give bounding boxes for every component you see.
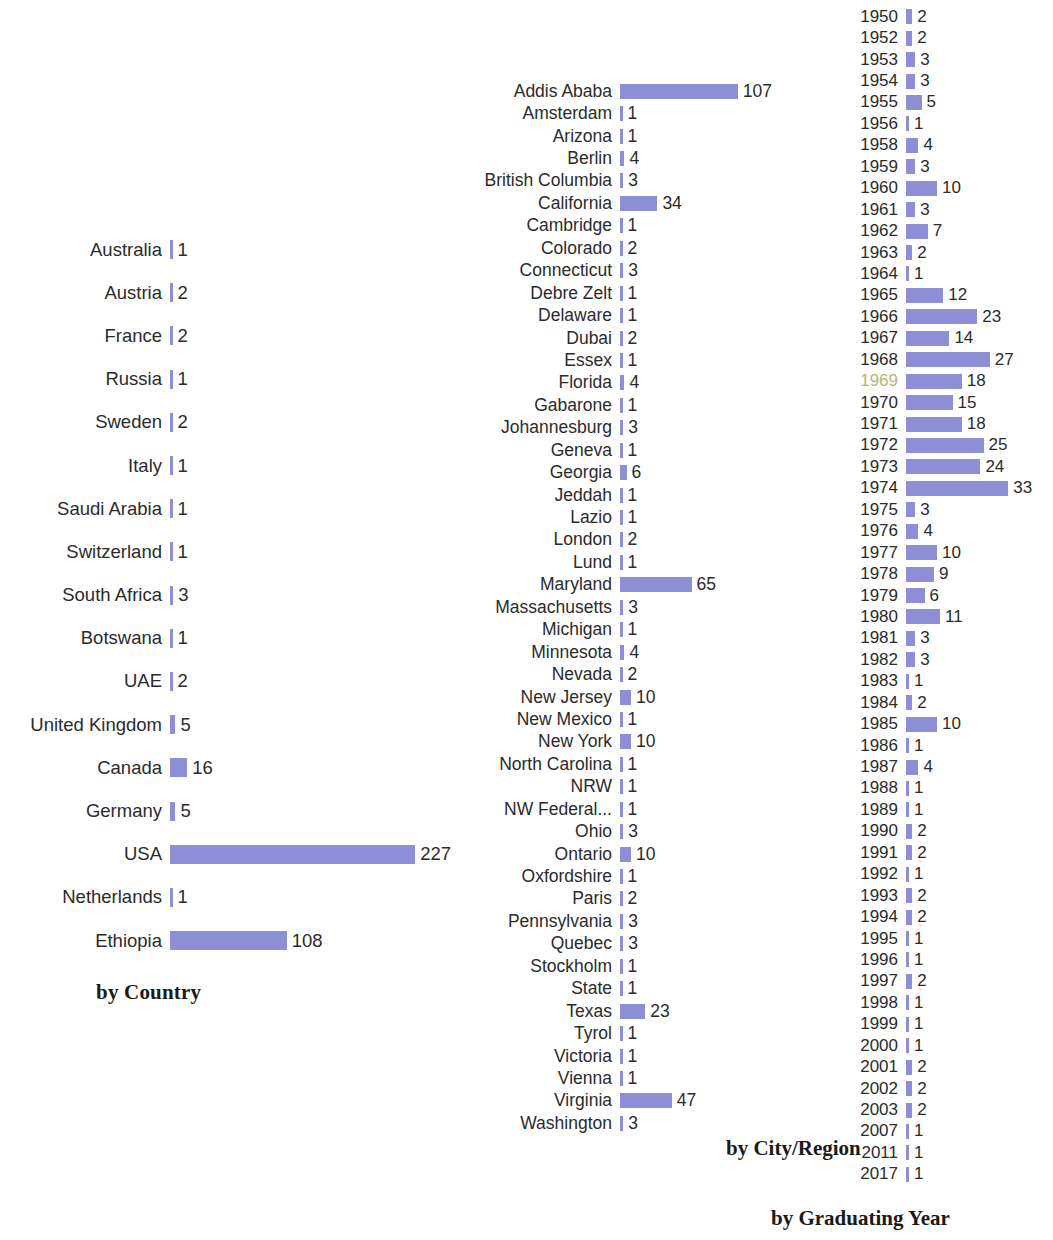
bar-row[interactable]: 19972: [820, 971, 1053, 992]
bar-graduating-year-23[interactable]: [906, 502, 915, 517]
bar-row[interactable]: Nevada2: [410, 663, 840, 685]
bar-row[interactable]: 198011: [820, 606, 1053, 627]
bar-row[interactable]: Maryland65: [410, 574, 840, 596]
bar-row[interactable]: Washington3: [410, 1112, 840, 1134]
bar-row[interactable]: Oxfordshire1: [410, 865, 840, 887]
bar-row[interactable]: 19861: [820, 735, 1053, 756]
bar-graduating-year-26[interactable]: [906, 567, 934, 582]
bar-row[interactable]: 19543: [820, 70, 1053, 91]
bar-graduating-year-24[interactable]: [906, 524, 918, 539]
bar-row[interactable]: Italy1: [0, 444, 470, 487]
bar-city-region-5[interactable]: [620, 196, 657, 211]
bar-row[interactable]: Gabarone1: [410, 394, 840, 416]
bar-row[interactable]: Minnesota4: [410, 641, 840, 663]
bar-graduating-year-2[interactable]: [906, 52, 915, 67]
bar-row[interactable]: Switzerland1: [0, 530, 470, 573]
bar-graduating-year-19[interactable]: [906, 417, 962, 432]
bar-row[interactable]: France2: [0, 314, 470, 357]
bar-row[interactable]: Jeddah1: [410, 484, 840, 506]
bar-row[interactable]: Austria2: [0, 271, 470, 314]
bar-row[interactable]: 19555: [820, 92, 1053, 113]
bar-row[interactable]: Canada16: [0, 746, 470, 789]
bar-row[interactable]: Paris2: [410, 888, 840, 910]
bar-row[interactable]: Florida4: [410, 372, 840, 394]
bar-row[interactable]: 19593: [820, 156, 1053, 177]
bar-row[interactable]: Connecticut3: [410, 260, 840, 282]
bar-row[interactable]: Quebec3: [410, 933, 840, 955]
bar-row[interactable]: Netherlands1: [0, 876, 470, 919]
bar-row[interactable]: London2: [410, 529, 840, 551]
bar-row[interactable]: California34: [410, 192, 840, 214]
bar-row[interactable]: 19789: [820, 563, 1053, 584]
bar-row[interactable]: Ethiopia108: [0, 919, 470, 962]
bar-row[interactable]: NRW1: [410, 776, 840, 798]
bar-graduating-year-3[interactable]: [906, 74, 915, 89]
bar-row[interactable]: UAE2: [0, 660, 470, 703]
bar-graduating-year-16[interactable]: [906, 352, 990, 367]
bar-row[interactable]: Amsterdam1: [410, 102, 840, 124]
bar-row[interactable]: 19632: [820, 242, 1053, 263]
bar-row[interactable]: Vienna1: [410, 1067, 840, 1089]
bar-row[interactable]: Michigan1: [410, 619, 840, 641]
bar-country-16[interactable]: [170, 931, 287, 950]
bar-row[interactable]: 20071: [820, 1121, 1053, 1142]
bar-city-region-22[interactable]: [620, 577, 692, 592]
bar-row[interactable]: North Carolina1: [410, 753, 840, 775]
bar-row[interactable]: New Mexico1: [410, 708, 840, 730]
bar-row[interactable]: 197015: [820, 392, 1053, 413]
bar-city-region-45[interactable]: [620, 1093, 672, 1108]
bar-row[interactable]: Colorado2: [410, 237, 840, 259]
bar-row[interactable]: Tyrol1: [410, 1022, 840, 1044]
bar-row[interactable]: 19981: [820, 992, 1053, 1013]
bar-city-region-0[interactable]: [620, 84, 738, 99]
bar-row[interactable]: 19502: [820, 6, 1053, 27]
bar-row[interactable]: Stockholm1: [410, 955, 840, 977]
bar-row[interactable]: 19921: [820, 864, 1053, 885]
bar-graduating-year-17[interactable]: [906, 374, 962, 389]
bar-row[interactable]: 19641: [820, 263, 1053, 284]
bar-row[interactable]: Saudi Arabia1: [0, 487, 470, 530]
bar-row[interactable]: Germany5: [0, 789, 470, 832]
bar-row[interactable]: 20022: [820, 1078, 1053, 1099]
bar-row[interactable]: 19613: [820, 199, 1053, 220]
bar-row[interactable]: Debre Zelt1: [410, 282, 840, 304]
bar-row[interactable]: 19813: [820, 628, 1053, 649]
bar-row[interactable]: 19764: [820, 521, 1053, 542]
bar-row[interactable]: USA227: [0, 833, 470, 876]
bar-row[interactable]: 197225: [820, 435, 1053, 456]
bar-row[interactable]: Berlin4: [410, 147, 840, 169]
bar-row[interactable]: 197118: [820, 413, 1053, 434]
bar-row[interactable]: Arizona1: [410, 125, 840, 147]
bar-graduating-year-15[interactable]: [906, 331, 949, 346]
bar-row[interactable]: NW Federal...1: [410, 798, 840, 820]
bar-row[interactable]: 20111: [820, 1142, 1053, 1163]
bar-row[interactable]: 196512: [820, 285, 1053, 306]
bar-row[interactable]: 20001: [820, 1035, 1053, 1056]
bar-graduating-year-6[interactable]: [906, 138, 918, 153]
bar-row[interactable]: 196623: [820, 306, 1053, 327]
bar-graduating-year-14[interactable]: [906, 309, 977, 324]
bar-row[interactable]: Virginia47: [410, 1090, 840, 1112]
bar-row[interactable]: Delaware1: [410, 304, 840, 326]
bar-row[interactable]: Sweden2: [0, 401, 470, 444]
bar-row[interactable]: 19522: [820, 27, 1053, 48]
bar-row[interactable]: 19627: [820, 220, 1053, 241]
bar-row[interactable]: 19533: [820, 49, 1053, 70]
bar-row[interactable]: 20032: [820, 1099, 1053, 1120]
bar-row[interactable]: 19753: [820, 499, 1053, 520]
bar-row[interactable]: Lund1: [410, 551, 840, 573]
bar-row[interactable]: Lazio1: [410, 506, 840, 528]
bar-country-12[interactable]: [170, 758, 187, 777]
bar-row[interactable]: 197324: [820, 456, 1053, 477]
bar-row[interactable]: 19584: [820, 135, 1053, 156]
bar-graduating-year-9[interactable]: [906, 202, 915, 217]
bar-row[interactable]: Cambridge1: [410, 215, 840, 237]
bar-row[interactable]: 19951: [820, 928, 1053, 949]
bar-graduating-year-18[interactable]: [906, 395, 953, 410]
bar-city-region-34[interactable]: [620, 847, 631, 862]
bar-row[interactable]: 19942: [820, 906, 1053, 927]
bar-row[interactable]: 197710: [820, 542, 1053, 563]
bar-row[interactable]: New Jersey10: [410, 686, 840, 708]
bar-row[interactable]: 19891: [820, 799, 1053, 820]
bar-row[interactable]: 197433: [820, 478, 1053, 499]
